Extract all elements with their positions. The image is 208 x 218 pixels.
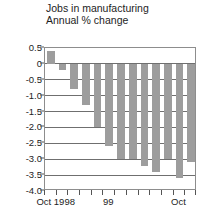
x-axis-tick-mark xyxy=(44,190,45,195)
chart-subtitle: Annual % change xyxy=(46,14,149,26)
bar-series xyxy=(45,48,195,189)
bar xyxy=(129,64,137,159)
y-axis-tick-label: -2.0 xyxy=(2,121,42,132)
y-axis-tick-label: 0.5 xyxy=(2,42,42,53)
x-axis-tick-mark xyxy=(102,190,103,195)
y-axis-tick-label: -1.0 xyxy=(2,89,42,100)
bar xyxy=(176,64,184,178)
bar xyxy=(82,64,90,105)
x-axis-tick-label: 99 xyxy=(103,196,114,207)
x-axis-tick-mark xyxy=(126,190,127,195)
plot-area xyxy=(44,47,196,190)
y-axis-labels: 0.50-0.5-1.0-1.5-2.0-2.5-3.0-3.5-4.0 xyxy=(0,0,42,218)
bar xyxy=(141,64,149,166)
y-axis-tick-label: 0 xyxy=(2,57,42,68)
bar xyxy=(152,64,160,172)
bar xyxy=(94,64,102,128)
x-axis-tick-mark xyxy=(79,190,80,195)
x-axis-tick-mark xyxy=(149,190,150,195)
bar xyxy=(164,64,172,159)
x-axis-tick-label: Oct 1998 xyxy=(36,196,75,207)
x-axis-tick-mark xyxy=(67,190,68,195)
y-axis-tick-label: -4.0 xyxy=(2,185,42,196)
y-axis-tick-label: -3.0 xyxy=(2,153,42,164)
page-title: Jobs in manufacturing xyxy=(46,2,149,14)
x-axis-tick-mark xyxy=(184,190,185,195)
x-axis-tick-mark xyxy=(161,190,162,195)
x-axis-tick-mark xyxy=(195,190,196,195)
x-axis-tick-label: Oct xyxy=(171,196,186,207)
y-axis-tick-label: -1.5 xyxy=(2,105,42,116)
x-axis-tick-mark xyxy=(91,190,92,195)
chart-title-block: Jobs in manufacturing Annual % change xyxy=(46,2,149,26)
bar xyxy=(47,51,55,64)
y-axis-tick-label: -0.5 xyxy=(2,73,42,84)
bar xyxy=(117,64,125,159)
x-axis-tick-mark xyxy=(56,190,57,195)
x-axis-tick-mark xyxy=(138,190,139,195)
x-axis-tick-mark xyxy=(173,190,174,195)
y-axis-tick-label: -3.5 xyxy=(2,169,42,180)
y-axis-tick-label: -2.5 xyxy=(2,137,42,148)
bar xyxy=(187,64,195,163)
bar xyxy=(59,64,67,70)
bar xyxy=(70,64,78,89)
chart-container: Jobs in manufacturing Annual % change 0.… xyxy=(0,0,208,218)
x-axis-labels: Oct 199899Oct xyxy=(0,196,208,212)
x-axis-tick-mark xyxy=(114,190,115,195)
bar xyxy=(105,64,113,147)
